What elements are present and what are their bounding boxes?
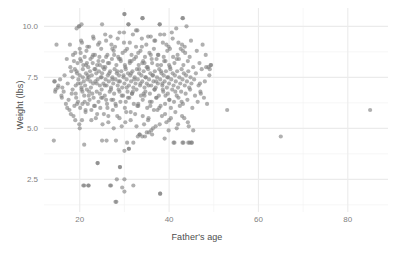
data-point (82, 79, 86, 83)
data-point (172, 141, 176, 145)
data-point (118, 165, 122, 169)
data-point (194, 71, 198, 75)
data-point (183, 45, 187, 49)
data-point (136, 51, 140, 55)
data-point (158, 192, 162, 196)
x-axis-title: Father's age (0, 232, 394, 242)
data-point (176, 85, 180, 89)
data-point (165, 85, 169, 89)
y-tick-label: 5.0 (27, 124, 38, 133)
data-point (89, 118, 93, 122)
data-point (134, 28, 138, 32)
data-point (158, 32, 162, 36)
data-point (70, 92, 74, 96)
data-point (68, 43, 72, 47)
data-point (62, 90, 66, 94)
data-point (133, 112, 137, 116)
data-point (142, 85, 146, 89)
y-tick-label: 10.0 (22, 22, 38, 31)
data-point (143, 55, 147, 59)
data-point (110, 47, 114, 51)
data-point (123, 120, 127, 124)
data-point (101, 59, 105, 63)
data-point (91, 96, 95, 100)
data-point (76, 81, 80, 85)
y-tick-label: 7.5 (27, 73, 38, 82)
data-point (140, 45, 144, 49)
data-point (142, 94, 146, 98)
data-point (112, 126, 116, 130)
data-point (149, 53, 153, 57)
data-point (100, 22, 104, 26)
data-point (121, 73, 125, 77)
data-point (175, 69, 179, 73)
data-point (201, 43, 205, 47)
data-point (117, 79, 121, 83)
data-point (131, 183, 135, 187)
data-point (122, 190, 126, 194)
data-point (103, 83, 107, 87)
data-point (192, 77, 196, 81)
data-point (138, 132, 142, 136)
data-point (148, 104, 152, 108)
data-point (125, 77, 129, 81)
data-point (105, 106, 109, 110)
data-point (114, 63, 118, 67)
data-point (126, 22, 130, 26)
data-point (103, 32, 107, 36)
data-point (94, 116, 98, 120)
data-point (79, 39, 83, 43)
data-point (136, 77, 140, 81)
data-point (100, 139, 104, 143)
data-point (180, 100, 184, 104)
data-point (79, 88, 83, 92)
data-point (72, 59, 76, 63)
data-point (225, 108, 229, 112)
data-point (120, 85, 124, 89)
data-point (202, 96, 206, 100)
data-point (136, 102, 140, 106)
data-point (129, 118, 133, 122)
data-point (163, 136, 167, 140)
data-point (93, 104, 97, 108)
data-point (204, 53, 208, 57)
data-point (65, 106, 69, 110)
data-point (174, 26, 178, 30)
data-point (125, 85, 129, 89)
data-point (54, 43, 58, 47)
data-point (152, 108, 156, 112)
data-point (52, 139, 56, 143)
data-point (208, 67, 212, 71)
y-tick-label: 2.5 (27, 175, 38, 184)
data-point (99, 96, 103, 100)
data-point (185, 98, 189, 102)
data-point (162, 59, 166, 63)
data-point (143, 75, 147, 79)
data-point (106, 114, 110, 118)
data-point (105, 102, 109, 106)
data-point (163, 102, 167, 106)
data-point (190, 106, 194, 110)
data-point (163, 94, 167, 98)
data-point (97, 55, 101, 59)
data-point (91, 61, 95, 65)
data-point (134, 45, 138, 49)
data-point (117, 116, 121, 120)
data-point (122, 41, 126, 45)
data-point (187, 124, 191, 128)
data-point (64, 102, 68, 106)
data-point (131, 141, 135, 145)
data-point (78, 126, 82, 130)
data-point (96, 59, 100, 63)
data-point (100, 75, 104, 79)
data-point (186, 120, 190, 124)
data-point (189, 81, 193, 85)
data-point (116, 83, 120, 87)
data-point (153, 69, 157, 73)
data-point (110, 77, 114, 81)
data-point (167, 98, 171, 102)
data-point (157, 106, 161, 110)
data-point (62, 73, 66, 77)
data-point (111, 81, 115, 85)
data-point (169, 116, 173, 120)
